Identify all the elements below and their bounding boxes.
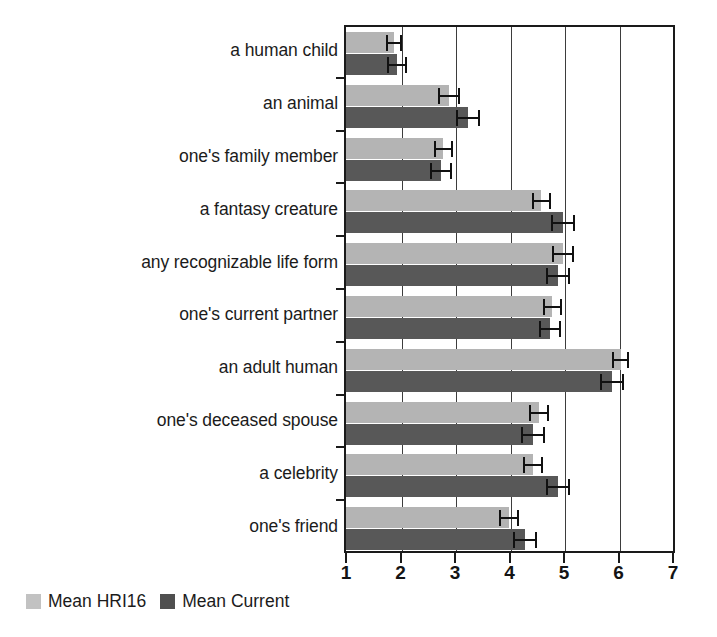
horizontal-bar-chart: a human childan animalone's family membe… [0, 0, 717, 637]
y-axis-tick [336, 394, 345, 396]
category-label: one's deceased spouse [0, 412, 338, 430]
error-bar-cap-high [400, 35, 402, 51]
category-label: one's family member [0, 148, 338, 166]
bar [346, 371, 612, 392]
legend-item: Mean HRI16 [26, 593, 146, 611]
bar [346, 32, 394, 53]
bar [346, 107, 468, 128]
y-axis-tick [336, 182, 345, 184]
y-axis-tick [336, 77, 345, 79]
bar-group [346, 397, 673, 450]
error-bar-cap-high [517, 510, 519, 526]
y-axis-tick [336, 446, 345, 448]
x-axis-tick-labels: 1234567 [344, 563, 675, 589]
category-axis-labels: a human childan animalone's family membe… [0, 25, 338, 553]
bar-group [346, 238, 673, 291]
bar [346, 402, 539, 423]
y-axis-tick [336, 288, 345, 290]
error-bar-cap-high [549, 193, 551, 209]
bar [346, 296, 552, 317]
bar [346, 160, 441, 181]
error-bar-cap-high [450, 163, 452, 179]
error-bar-cap-high [478, 110, 480, 126]
bar [346, 190, 541, 211]
legend-swatch [160, 594, 175, 609]
y-axis-tick [336, 130, 345, 132]
bar-group [346, 133, 673, 186]
category-label: one's current partner [0, 306, 338, 324]
x-axis-tick-label: 1 [341, 563, 352, 582]
legend-item: Mean Current [160, 593, 289, 611]
plot-area [344, 25, 675, 553]
x-axis-tick-label: 2 [395, 563, 406, 582]
bar [346, 54, 397, 75]
bar [346, 476, 558, 497]
x-axis-tick-label: 7 [668, 563, 679, 582]
bar [346, 243, 563, 264]
error-bar-cap-high [572, 246, 574, 262]
category-label: a celebrity [0, 465, 338, 483]
error-bar-cap-high [560, 299, 562, 315]
error-bar-cap-high [568, 479, 570, 495]
error-bar-cap-high [405, 57, 407, 73]
error-bar-cap-high [547, 405, 549, 421]
y-axis-tick [336, 499, 345, 501]
bar [346, 349, 621, 370]
category-label: any recognizable life form [0, 254, 338, 272]
error-bar-cap-high [543, 427, 545, 443]
x-axis-tick-label: 3 [450, 563, 461, 582]
error-bar-cap-high [535, 532, 537, 548]
x-axis-tick-label: 5 [559, 563, 570, 582]
category-label: a fantasy creature [0, 201, 338, 219]
legend-swatch [26, 594, 41, 609]
bar-group [346, 185, 673, 238]
error-bar-cap-high [573, 215, 575, 231]
bar-group [346, 502, 673, 555]
error-bar-cap-high [559, 321, 561, 337]
error-bar-cap-high [541, 457, 543, 473]
bar [346, 529, 525, 550]
bar [346, 507, 509, 528]
bar-group [346, 80, 673, 133]
error-bar-cap-high [568, 268, 570, 284]
bar [346, 265, 558, 286]
bar [346, 318, 550, 339]
x-axis-tick-label: 6 [613, 563, 624, 582]
bar [346, 212, 563, 233]
error-bar-cap-high [458, 88, 460, 104]
chart-legend: Mean HRI16Mean Current [26, 593, 289, 611]
legend-label: Mean HRI16 [48, 593, 146, 611]
bar [346, 424, 533, 445]
bar [346, 138, 443, 159]
category-label: an adult human [0, 359, 338, 377]
error-bar-cap-high [622, 374, 624, 390]
bar-group [346, 291, 673, 344]
x-axis-tick-label: 4 [504, 563, 515, 582]
y-axis-tick [336, 341, 345, 343]
y-axis-tick [336, 235, 345, 237]
bar-group [346, 27, 673, 80]
category-label: a human child [0, 42, 338, 60]
error-bar-cap-high [627, 352, 629, 368]
error-bar-cap-high [451, 141, 453, 157]
bar [346, 85, 449, 106]
bar-group [346, 344, 673, 397]
category-label: an animal [0, 95, 338, 113]
legend-label: Mean Current [182, 593, 289, 611]
bar-group [346, 449, 673, 502]
bar [346, 454, 533, 475]
category-label: one's friend [0, 518, 338, 536]
